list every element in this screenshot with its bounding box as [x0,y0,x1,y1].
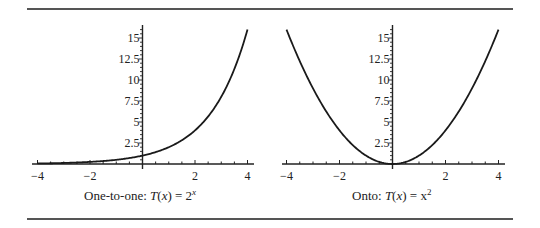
y-tick-label: 15 [128,31,140,45]
y-tick-label: 15 [378,31,390,45]
x-tick-label: −2 [84,169,97,183]
caption-right-prefix: Onto: [352,188,385,203]
caption-right-fn: T [385,188,392,203]
caption-left-var: x [162,188,168,203]
plots-canvas: −4−2242.557.51012.515 −4−2242.557.51012.… [0,0,540,228]
caption-right-var: x [396,188,402,203]
plot-left-exponential: −4−2242.557.51012.515 [31,25,254,183]
y-tick-label: 2.5 [125,136,140,150]
y-tick-label: 7.5 [125,94,140,108]
caption-left-fn: T [150,188,157,203]
caption-left-eq: = 2 [172,188,192,203]
x-tick-label: −4 [280,169,293,183]
y-tick-label: 5 [134,115,140,129]
caption-right-eq: = x [407,188,427,203]
plot-right-parabola: −4−2242.557.51012.515 [280,25,505,183]
y-tick-label: 10 [128,73,140,87]
x-tick-label: 4 [496,169,502,183]
x-tick-label: 2 [192,169,198,183]
y-tick-label: 7.5 [375,94,390,108]
y-tick-label: 12.5 [369,52,390,66]
y-tick-label: 5 [384,115,390,129]
x-tick-label: −4 [31,169,44,183]
x-tick-label: 2 [443,169,449,183]
y-tick-label: 2.5 [375,136,390,150]
y-tick-label: 10 [378,73,390,87]
caption-right: Onto: T(x) = x2 [352,188,431,204]
caption-left: One-to-one: T(x) = 2x [84,188,196,204]
y-tick-label: 12.5 [119,52,140,66]
caption-left-sup: x [192,187,196,197]
caption-left-prefix: One-to-one: [84,188,150,203]
caption-right-sup: 2 [427,187,432,197]
x-tick-label: −2 [333,169,346,183]
x-tick-label: 4 [245,169,251,183]
